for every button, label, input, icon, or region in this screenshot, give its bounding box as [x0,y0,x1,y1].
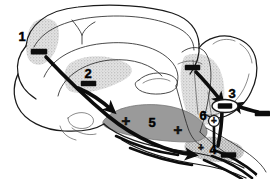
minus-sign-upper-right [185,65,200,70]
minus-sign-4 [221,152,236,157]
label-5: 5 [148,115,155,130]
minus-sign-right-edge [255,111,270,116]
brain-circuit-figure: + + + + 1 2 3 4 5 6 [0,0,270,179]
label-1: 1 [18,29,25,44]
label-2: 2 [84,66,91,81]
label-3: 3 [228,86,235,101]
plus-sign-4-region: + [198,142,204,153]
brain-diagram-canvas: + + + + 1 2 3 4 5 6 [0,0,270,179]
plus-sign-5b: + [174,121,183,138]
minus-sign-2 [81,81,96,86]
minus-sign-3 [218,104,232,109]
plus-sign-5a: + [122,112,131,129]
label-4: 4 [209,142,217,157]
label-6: 6 [199,108,206,123]
plus-sign-6-circle: + [211,115,217,126]
minus-sign-1 [31,49,47,54]
